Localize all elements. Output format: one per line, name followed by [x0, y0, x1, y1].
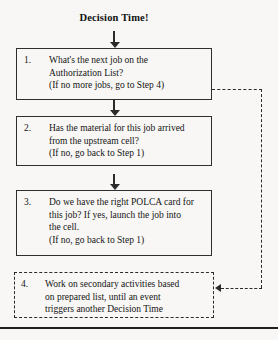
step-1-line-2: Authorization List? [49, 67, 205, 80]
step-2-line-3: (If no, go back to Step 1) [49, 147, 205, 160]
step-3-line-1: Do we have the right POLCA card for [49, 196, 205, 209]
step-box-4[interactable]: 4. Work on secondary activities based on… [14, 272, 214, 318]
page-title: Decision Time! [0, 12, 228, 23]
step-2-line-1: Has the material for this job arrived [49, 122, 205, 135]
step-1-text: What's the next job on the Authorization… [49, 54, 205, 92]
step-2-content: 2. Has the material for this job arrived… [17, 117, 211, 165]
arrow-shaft [113, 31, 115, 42]
feedback-path-top-segment [212, 89, 262, 90]
entry-down-arrow-icon [109, 31, 120, 48]
feedback-left-arrow-icon [215, 284, 221, 292]
step-1-number: 1. [24, 54, 31, 67]
step-3-text: Do we have the right POLCA card for this… [49, 196, 205, 246]
step-4-line-2: on prepared list, until an event [45, 291, 207, 304]
arrow-shaft [113, 100, 115, 110]
step-4-line-1: Work on secondary activities based [45, 278, 207, 291]
step-box-1[interactable]: 1. What's the next job on the Authorizat… [16, 48, 212, 100]
step-box-3[interactable]: 3. Do we have the right POLCA card for t… [16, 190, 212, 256]
feedback-path-bottom-segment [221, 288, 262, 289]
step-3-content: 3. Do we have the right POLCA card for t… [17, 191, 211, 255]
step-4-text: Work on secondary activities based on pr… [45, 278, 207, 316]
bottom-divider [0, 327, 278, 329]
step-2-text: Has the material for this job arrived fr… [49, 122, 205, 160]
step2-to-step3-down-arrow-icon [109, 174, 120, 190]
step-4-content: 4. Work on secondary activities based on… [15, 273, 213, 317]
step-2-line-2: from the upstream cell? [49, 135, 205, 148]
step-box-2[interactable]: 2. Has the material for this job arrived… [16, 116, 212, 166]
step-4-number: 4. [21, 278, 28, 291]
arrow-shaft [113, 174, 115, 184]
step-3-number: 3. [24, 196, 31, 209]
flowchart-page: Decision Time! 1. What's the next job on… [0, 0, 278, 340]
step-4-line-3: triggers another Decision Time [45, 303, 207, 316]
step-1-line-1: What's the next job on the [49, 54, 205, 67]
feedback-path-right-segment [261, 89, 262, 288]
step-2-number: 2. [24, 122, 31, 135]
step-1-line-3: (If no more jobs, go to Step 4) [49, 79, 205, 92]
step1-to-step2-down-arrow-icon [109, 100, 120, 116]
step-3-line-4: (If no, go back to Step 1) [49, 234, 205, 247]
step-3-line-2: this job? If yes, launch the job into [49, 209, 205, 222]
step-3-line-3: the cell. [49, 221, 205, 234]
step-1-content: 1. What's the next job on the Authorizat… [17, 49, 211, 99]
